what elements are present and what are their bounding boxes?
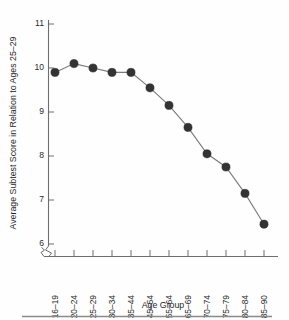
x-axis-title: Age Group xyxy=(142,300,185,310)
data-point-5 xyxy=(146,84,154,92)
x-tick-label-8: 70–74 xyxy=(202,295,212,319)
y-tick-group xyxy=(49,24,55,244)
x-tick-label-10: 80–84 xyxy=(240,295,250,319)
x-tick-label-9: 75–79 xyxy=(221,295,231,319)
data-point-3 xyxy=(108,68,116,76)
x-tick-group xyxy=(55,250,264,257)
y-tick-label-11: 11 xyxy=(35,18,44,28)
data-point-2 xyxy=(89,64,97,72)
data-point-9 xyxy=(222,163,230,171)
series-markers xyxy=(51,60,268,229)
x-tick-label-3: 30–34 xyxy=(107,295,117,319)
y-axis-break-icon xyxy=(46,246,52,257)
chart-figure: 11 10 9 8 7 6 16–19 20–24 25–29 xyxy=(0,0,289,320)
y-tick-label-9: 9 xyxy=(39,106,44,116)
y-tick-label-7: 7 xyxy=(39,194,44,204)
x-tick-label-7: 65–69 xyxy=(183,295,193,319)
data-point-0 xyxy=(51,68,59,76)
data-point-8 xyxy=(203,150,211,158)
data-point-1 xyxy=(70,60,78,68)
x-tick-label-2: 25–29 xyxy=(88,295,98,319)
y-tick-label-8: 8 xyxy=(39,150,44,160)
x-tick-label-0: 16–19 xyxy=(50,295,60,319)
line-chart: 11 10 9 8 7 6 16–19 20–24 25–29 xyxy=(0,0,289,320)
x-axis-break-icon xyxy=(41,248,45,257)
series-line xyxy=(55,64,264,225)
x-tick-label-1: 20–24 xyxy=(69,295,79,319)
y-axis-title: Average Subtest Score in Relation to Age… xyxy=(8,36,18,229)
y-tick-label-10: 10 xyxy=(34,62,44,72)
x-tick-label-11: 85–90 xyxy=(259,295,269,319)
data-point-7 xyxy=(184,123,192,131)
data-point-6 xyxy=(165,101,173,109)
y-tick-labels: 11 10 9 8 7 6 xyxy=(34,18,44,248)
data-point-10 xyxy=(241,189,249,197)
y-tick-label-6: 6 xyxy=(39,238,44,248)
data-point-11 xyxy=(260,220,268,228)
data-point-4 xyxy=(127,68,135,76)
x-tick-label-4: 35–44 xyxy=(126,295,136,319)
